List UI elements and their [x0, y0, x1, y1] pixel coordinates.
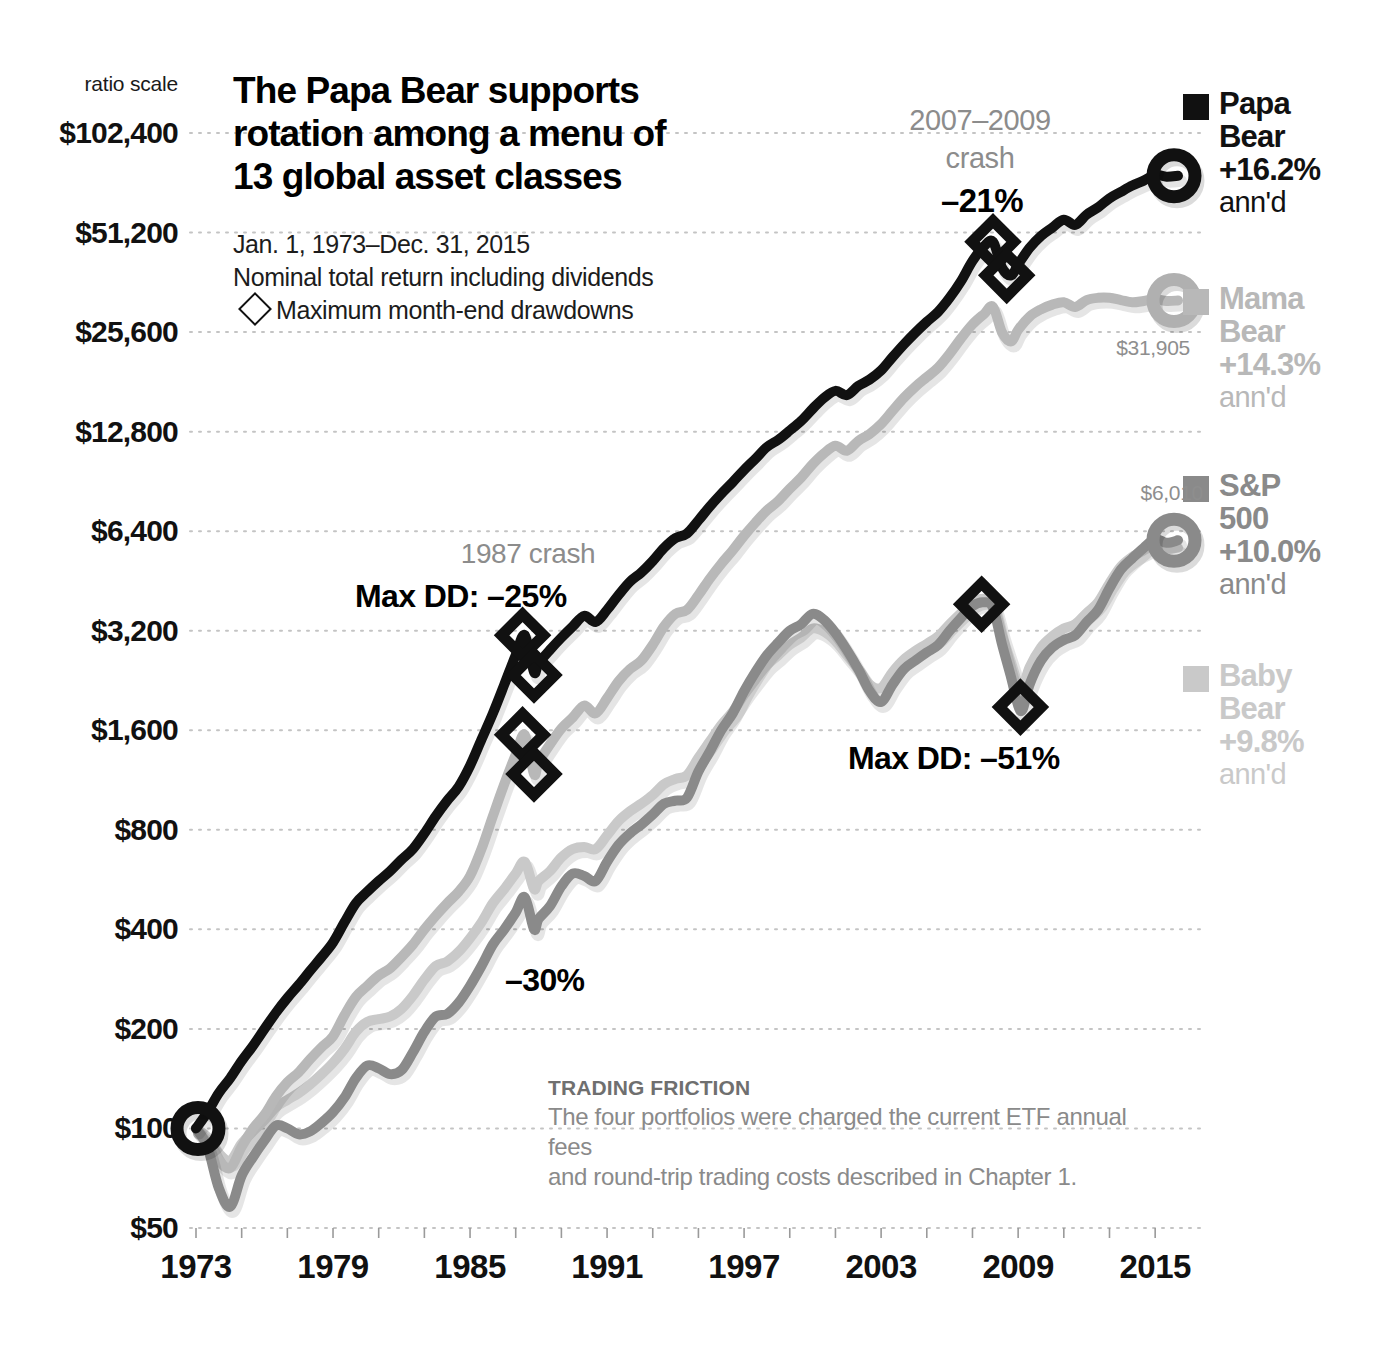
- trading-friction-body: The four portfolios were charged the cur…: [548, 1102, 1168, 1192]
- title-line-1: The Papa Bear supports: [233, 70, 753, 113]
- x-axis-minor-ticks: [196, 1228, 1155, 1238]
- trading-friction-body-line-1: The four portfolios were charged the cur…: [548, 1102, 1168, 1162]
- legend-name-line-1: S&P: [1219, 470, 1320, 503]
- legend-name-line-1: Baby: [1219, 660, 1304, 693]
- legend-name-line-2: Bear: [1219, 121, 1320, 154]
- legend-annd-label: ann'd: [1219, 759, 1304, 791]
- legend-name-line-1: Mama: [1219, 283, 1320, 316]
- subtitle-block: Jan. 1, 1973–Dec. 31, 2015 Nominal total…: [233, 228, 793, 327]
- trading-friction-note: TRADING FRICTION The four portfolios wer…: [548, 1076, 1168, 1192]
- legend-swatch-icon: [1183, 289, 1209, 315]
- annotation-dd-mama: –30%: [505, 962, 584, 999]
- legend-swatch-icon: [1183, 666, 1209, 692]
- trading-friction-body-line-2: and round-trip trading costs described i…: [548, 1162, 1168, 1192]
- x-axis-tick-2: 1985: [434, 1248, 505, 1286]
- legend-annd-label: ann'd: [1219, 382, 1320, 414]
- y-axis-tick-11: $50: [0, 1211, 178, 1245]
- subtitle-date-range: Jan. 1, 1973–Dec. 31, 2015: [233, 228, 793, 261]
- annotation-1987-crash: 1987 crash: [461, 538, 596, 570]
- legend-item-s-p[interactable]: S&P500+10.0%ann'd: [1183, 470, 1373, 600]
- diamond-icon: [238, 292, 272, 326]
- legend-annualized-return: +16.2%: [1219, 154, 1320, 187]
- legend-annualized-return: +9.8%: [1219, 726, 1304, 759]
- annotation-2007-crash-label: crash: [946, 142, 1015, 175]
- legend-item-baby[interactable]: BabyBear+9.8%ann'd: [1183, 660, 1373, 790]
- x-axis-tick-0: 1973: [160, 1248, 231, 1286]
- y-axis-tick-5: $3,200: [0, 614, 178, 648]
- subtitle-drawdown-label: Maximum month-end drawdowns: [276, 294, 633, 327]
- legend-annualized-return: +14.3%: [1219, 349, 1320, 382]
- ratio-scale-label: ratio scale: [0, 72, 178, 96]
- legend-annd-label: ann'd: [1219, 569, 1320, 601]
- y-axis-tick-2: $25,600: [0, 315, 178, 349]
- legend-name-line-2: Bear: [1219, 316, 1320, 349]
- legend-name-line-2: 500: [1219, 503, 1320, 536]
- y-axis-tick-4: $6,400: [0, 514, 178, 548]
- title-line-2: rotation among a menu of: [233, 113, 753, 156]
- series-baby-bear: [196, 545, 1181, 1166]
- x-axis-tick-7: 2015: [1119, 1248, 1190, 1286]
- legend-annd-label: ann'd: [1219, 187, 1320, 219]
- annotation-max-dd-sp: Max DD: –51%: [848, 740, 1060, 777]
- legend-swatch-icon: [1183, 94, 1209, 120]
- legend-item-mama[interactable]: MamaBear+14.3%ann'd: [1183, 283, 1373, 413]
- end-value-label-mama: $31,905: [1116, 336, 1190, 360]
- x-axis-tick-3: 1991: [571, 1248, 642, 1286]
- y-axis-tick-0: $102,400: [0, 116, 178, 150]
- x-axis-tick-4: 1997: [708, 1248, 779, 1286]
- y-axis-tick-3: $12,800: [0, 415, 178, 449]
- trading-friction-heading: TRADING FRICTION: [548, 1076, 1168, 1100]
- y-axis-tick-8: $400: [0, 912, 178, 946]
- y-axis-tick-1: $51,200: [0, 216, 178, 250]
- subtitle-return-basis: Nominal total return including dividends: [233, 261, 793, 294]
- subtitle-drawdown-row: Maximum month-end drawdowns: [233, 294, 793, 327]
- legend-item-papa[interactable]: PapaBear+16.2%ann'd: [1183, 88, 1373, 218]
- legend-annualized-return: +10.0%: [1219, 536, 1320, 569]
- annotation-2007-crash-pct: –21%: [941, 182, 1023, 220]
- x-axis-tick-5: 2003: [845, 1248, 916, 1286]
- y-axis-tick-10: $100: [0, 1111, 178, 1145]
- annotation-2007-crash-years: 2007–2009: [909, 104, 1051, 137]
- x-axis-tick-6: 2009: [982, 1248, 1053, 1286]
- legend-name-line-2: Bear: [1219, 693, 1304, 726]
- annotation-max-dd-papa: Max DD: –25%: [355, 578, 567, 615]
- title-line-3: 13 global asset classes: [233, 156, 753, 199]
- y-axis-tick-7: $800: [0, 813, 178, 847]
- x-axis-tick-1: 1979: [297, 1248, 368, 1286]
- y-axis-tick-6: $1,600: [0, 713, 178, 747]
- end-value-label-s&p: $6,010: [1141, 481, 1203, 505]
- legend-name-line-1: Papa: [1219, 88, 1320, 121]
- y-axis-tick-9: $200: [0, 1012, 178, 1046]
- page-title: The Papa Bear supports rotation among a …: [233, 70, 753, 199]
